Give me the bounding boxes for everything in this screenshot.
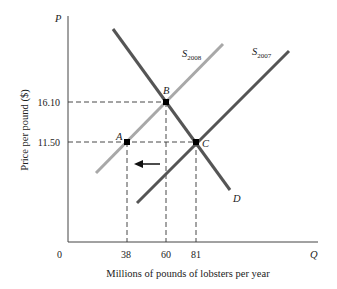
point-c-label: C [202,138,210,149]
shift-arrow-icon [134,160,160,168]
x-axis-title: Millions of pounds of lobsters per year [106,268,270,279]
y-tick-16-10: 16.10 [38,97,61,108]
point-b-label: B [163,85,170,96]
y-tick-11-50: 11.50 [38,137,60,148]
point-a-label: A [115,131,123,142]
axes [68,16,318,242]
s2007-label-sub: 2007 [257,52,272,60]
supply-demand-chart: A B C D S2008 S2007 P Q 0 16.10 11.50 38… [0,0,337,289]
supply-curve-2007 [137,51,289,203]
point-b-marker [163,99,169,105]
point-a-marker [124,139,130,145]
guide-lines [68,102,196,242]
origin-label: 0 [57,249,62,260]
x-tick-81: 81 [191,249,201,260]
x-axis-symbol: Q [310,249,318,260]
demand-label: D [232,193,241,204]
point-c-marker [193,139,199,145]
y-axis-title: Price per pound ($) [19,89,31,171]
x-tick-38: 38 [121,249,131,260]
s2007-label: S2007 [252,46,272,60]
s2008-label: S2008 [182,48,202,62]
s2008-label-sub: 2008 [187,54,202,62]
x-tick-60: 60 [161,249,171,260]
y-axis-symbol: P [54,13,62,24]
